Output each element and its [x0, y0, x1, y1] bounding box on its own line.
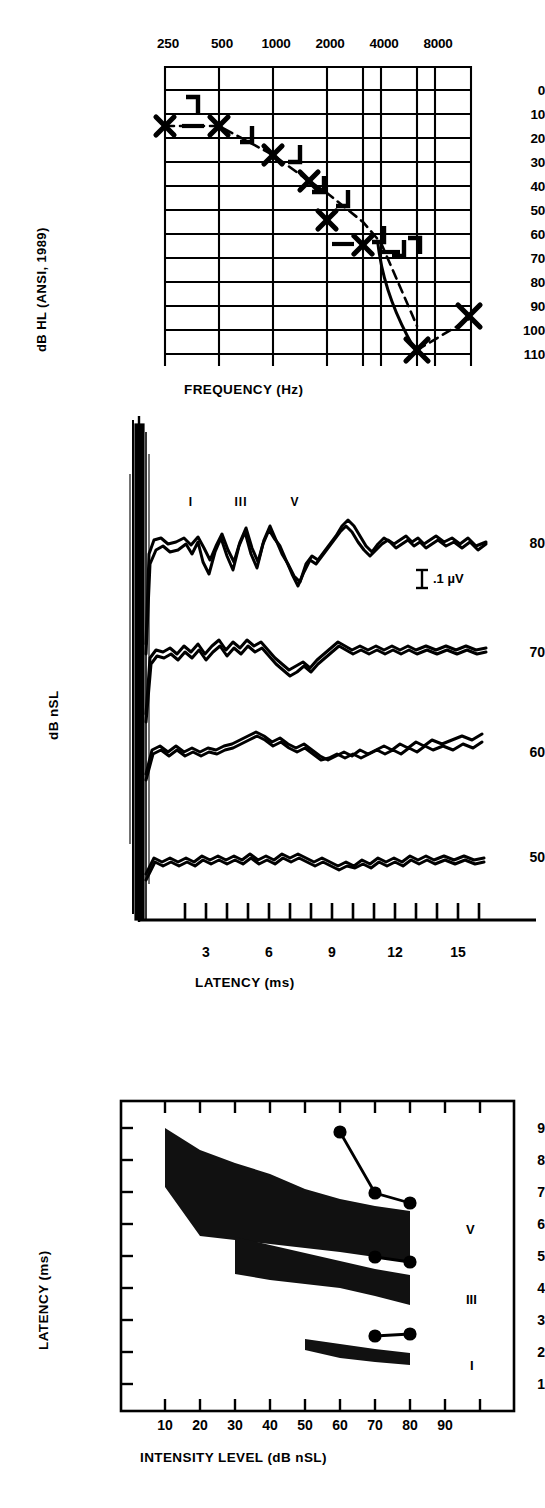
abr-trace-80db	[146, 520, 486, 654]
lif-x-label: 80	[402, 1417, 418, 1433]
lif-x-label: 60	[332, 1417, 348, 1433]
audiogram-freq-label: 4000	[369, 36, 398, 51]
latency-intensity-panel: 9 8 7 6 5 4 3 2 1 LATENCY (ms) 10 20 30 …	[0, 1000, 545, 1508]
abr-latency-label: 6	[265, 944, 273, 960]
audiogram-plot	[164, 66, 472, 366]
abr-x-axis-title: LATENCY (ms)	[195, 975, 295, 990]
lif-data-point	[335, 1127, 345, 1137]
lif-series-wave-i	[370, 1329, 415, 1341]
audiogram-freq-label: 500	[211, 36, 233, 51]
audiogram-panel: 250 500 1000 2000 4000 8000 0 10 20 30 4…	[0, 0, 545, 410]
abr-trace-70db	[146, 640, 486, 722]
lif-x-label: 50	[297, 1417, 313, 1433]
lif-plot	[120, 1100, 515, 1412]
audiogram-x-axis-title: FREQUENCY (Hz)	[184, 382, 303, 397]
abr-traces-plot	[116, 414, 536, 939]
audiogram-threshold-drop	[378, 244, 414, 348]
lif-x-ticks	[165, 1101, 480, 1411]
abr-x-ticks	[185, 903, 479, 920]
abr-latency-label: 3	[202, 944, 210, 960]
lif-data-point	[370, 1331, 380, 1341]
lif-y-ticks	[121, 1128, 133, 1384]
abr-waveform-panel: 80 70 60 50 dB nSL I III V .1 µV 3 6 9 1…	[0, 410, 545, 1000]
abr-trace-50db	[146, 854, 484, 880]
audiogram-x-symbols	[156, 117, 480, 361]
lif-data-point	[405, 1257, 415, 1267]
lif-series-wave-v	[335, 1127, 415, 1208]
audiogram-air-conduction-line	[165, 126, 417, 326]
audiogram-freq-label: 250	[157, 36, 179, 51]
lif-y-axis-title: LATENCY (ms)	[36, 1250, 51, 1350]
lif-x-label: 90	[437, 1417, 453, 1433]
lif-x-label: 10	[157, 1417, 173, 1433]
lif-norm-band-i	[305, 1339, 410, 1365]
abr-latency-label: 15	[450, 944, 466, 960]
lif-data-point	[370, 1252, 380, 1262]
audiogram-y-axis-title: dB HL (ANSI, 1989)	[34, 227, 49, 352]
lif-x-label: 70	[367, 1417, 383, 1433]
lif-x-label: 20	[192, 1417, 208, 1433]
abr-y-axis-title: dB nSL	[46, 690, 61, 740]
lif-x-label: 30	[227, 1417, 243, 1433]
lif-x-label: 40	[262, 1417, 278, 1433]
lif-x-axis-title: INTENSITY LEVEL (dB nSL)	[140, 1450, 327, 1465]
audiogram-freq-label: 2000	[315, 36, 344, 51]
lif-data-point	[405, 1329, 415, 1339]
audiogram-freq-label: 1000	[261, 36, 290, 51]
abr-latency-label: 12	[387, 944, 403, 960]
audiogram-grid-vertical	[165, 66, 471, 366]
abr-latency-label: 9	[328, 944, 336, 960]
audiogram-freq-label: 8000	[423, 36, 452, 51]
stimulus-artifact	[130, 416, 149, 922]
lif-data-point	[370, 1188, 380, 1198]
abr-trace-60db	[146, 732, 482, 780]
lif-data-point	[405, 1198, 415, 1208]
